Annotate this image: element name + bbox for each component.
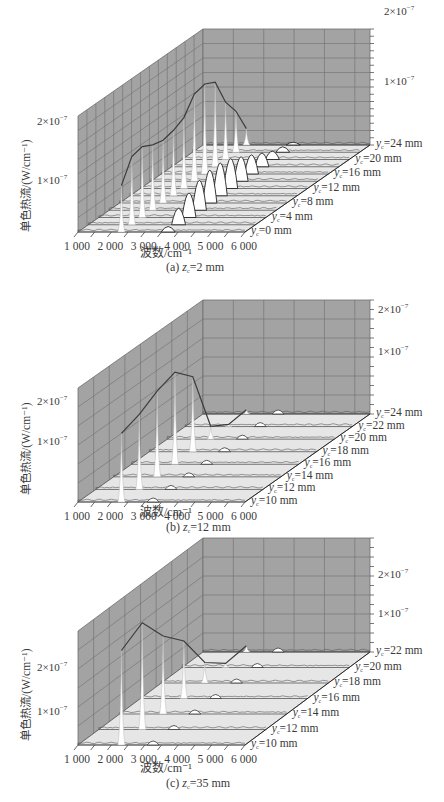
series-label: yc=16 mm: [314, 691, 361, 704]
series-label: yc=12 mm: [272, 722, 319, 735]
x-axis-label: 波数/cm⁻¹: [140, 247, 192, 259]
x-axis-label: 波数/cm⁻¹: [140, 506, 192, 518]
right-ytick-1e-7: 1×10−7: [378, 344, 408, 357]
x-tick-label: 1 000: [64, 240, 90, 252]
chart-panel-a: 2×10−7 1×10−7 2×10−7 1×10−7 单色热流/(W/cm⁻¹…: [0, 0, 444, 272]
subplot-caption-c: (c) zc=35 mm: [166, 776, 230, 791]
x-tick-label: 5 000: [198, 753, 224, 765]
x-tick-label: 6 000: [231, 240, 257, 252]
left-ytick-2e-7: 2×10−7: [37, 114, 67, 127]
x-tick-label: 6 000: [231, 753, 257, 765]
chart-panel-c: 2×10−7 1×10−7 2×10−7 1×10−7 单色热流/(W/cm⁻¹…: [0, 534, 444, 802]
series-label: yc=14 mm: [293, 706, 340, 719]
chart-panel-b: 2×10−7 1×10−7 2×10−7 1×10−7 单色热流/(W/cm⁻¹…: [0, 272, 444, 534]
figure-caption-cutoff: [95, 794, 345, 802]
series-label: yc=20 mm: [355, 152, 402, 165]
subplot-caption-b: (b) zc=12 mm: [166, 520, 231, 535]
series-label: yc=18 mm: [322, 444, 369, 457]
left-ytick-1e-7: 1×10−7: [37, 434, 67, 447]
series-label: yc=20 mm: [355, 660, 402, 673]
right-ytick-1e-7: 1×10−7: [378, 606, 408, 619]
series-label: yc=8 mm: [293, 195, 334, 208]
left-ytick-1e-7: 1×10−7: [37, 173, 67, 186]
series-label: yc=24 mm: [376, 137, 423, 150]
series-label: yc=18 mm: [334, 675, 381, 688]
series-label: yc=22 mm: [376, 644, 423, 657]
right-ytick-2e-7: 2×10−7: [378, 567, 408, 580]
series-label: yc=4 mm: [272, 210, 313, 223]
y-axis-label: 单色热流/(W/cm⁻¹): [17, 403, 33, 495]
left-ytick-2e-7: 2×10−7: [37, 660, 67, 673]
x-tick-label: 6 000: [231, 510, 257, 522]
series-label: yc=12 mm: [314, 181, 361, 194]
series-label: yc=10 mm: [251, 494, 298, 507]
series-label: yc=0 mm: [251, 224, 292, 237]
series-label: yc=22 mm: [358, 419, 405, 432]
series-label: yc=12 mm: [269, 481, 316, 494]
x-tick-label: 5 000: [198, 240, 224, 252]
x-tick-label: 1 000: [64, 510, 90, 522]
series-label: yc=16 mm: [305, 456, 352, 469]
x-tick-label: 2 000: [97, 753, 123, 765]
left-ytick-2e-7: 2×10−7: [37, 394, 67, 407]
x-tick-label: 2 000: [97, 510, 123, 522]
left-ytick-1e-7: 1×10−7: [37, 704, 67, 717]
series-label: yc=24 mm: [376, 406, 423, 419]
right-ytick-1e-7: 1×10−7: [384, 74, 414, 87]
series-label: yc=20 mm: [340, 431, 387, 444]
series-label: yc=14 mm: [287, 469, 334, 482]
x-tick-label: 1 000: [64, 753, 90, 765]
series-label: yc=10 mm: [251, 737, 298, 750]
series-label: yc=16 mm: [334, 166, 381, 179]
right-ytick-2e-7: 2×10−7: [378, 302, 408, 315]
x-axis-label: 波数/cm⁻¹: [140, 762, 192, 774]
y-axis-label: 单色热流/(W/cm⁻¹): [17, 649, 33, 741]
x-tick-label: 2 000: [97, 240, 123, 252]
y-axis-label: 单色热流/(W/cm⁻¹): [17, 140, 33, 232]
chart-a-3d-plot: [0, 0, 444, 272]
right-ytick-2e-7: 2×10−7: [384, 4, 414, 17]
